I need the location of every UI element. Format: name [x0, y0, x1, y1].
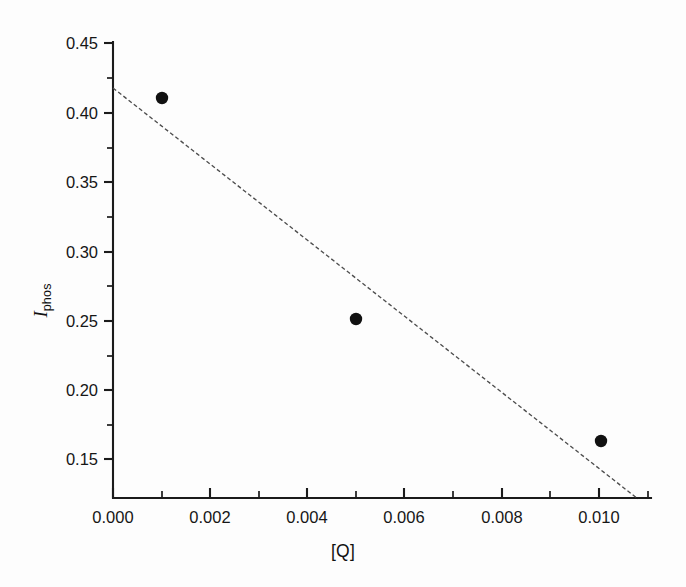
scatter-plot: 0.45 0.40 0.35 0.30 0.25 0.20 0.15	[0, 0, 686, 587]
ytick-label: 0.30	[66, 243, 98, 261]
x-axis-title-text: [Q]	[331, 541, 355, 561]
xtick-label: 0.004	[286, 508, 327, 526]
y-axis-title: Iphos	[14, 255, 70, 345]
xtick-label: 0.008	[481, 508, 522, 526]
y-axis-title-subscript: phos	[40, 283, 54, 311]
ytick-label: 0.15	[66, 450, 98, 468]
data-point	[350, 313, 362, 325]
xtick-label: 0.010	[578, 508, 619, 526]
xtick-label: 0.002	[189, 508, 230, 526]
xtick-label: 0.006	[383, 508, 424, 526]
xtick-label: 0.000	[92, 508, 133, 526]
figure-canvas: 0.45 0.40 0.35 0.30 0.25 0.20 0.15	[0, 0, 686, 587]
ytick-label: 0.45	[66, 34, 98, 52]
ytick-label: 0.20	[66, 381, 98, 399]
x-axis-title: [Q]	[0, 541, 686, 562]
x-axis-tick-labels: 0.000 0.002 0.004 0.006 0.008 0.010	[92, 508, 619, 526]
ytick-label: 0.40	[66, 104, 98, 122]
y-axis-title-symbol: I	[29, 311, 50, 317]
data-point	[595, 435, 607, 447]
ytick-label: 0.25	[66, 312, 98, 330]
y-axis-tick-labels: 0.45 0.40 0.35 0.30 0.25 0.20 0.15	[66, 34, 98, 468]
data-point	[156, 92, 168, 104]
trendline-linear-fit	[113, 88, 638, 499]
data-points	[156, 92, 607, 447]
ytick-label: 0.35	[66, 173, 98, 191]
axis-spines	[113, 42, 651, 498]
y-axis-major-ticks	[104, 43, 113, 459]
